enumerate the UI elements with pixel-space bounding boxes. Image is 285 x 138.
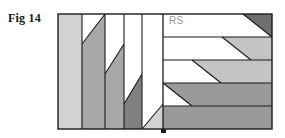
diagram-graphic (0, 0, 285, 138)
left-band-0-fill (58, 14, 82, 129)
right-panel-group (163, 14, 272, 129)
figure-container: Fig 14 (0, 0, 285, 138)
left-panel-group (58, 14, 163, 129)
rs-annotation-label: RS (169, 15, 184, 26)
right-band-4-fill (163, 106, 272, 129)
